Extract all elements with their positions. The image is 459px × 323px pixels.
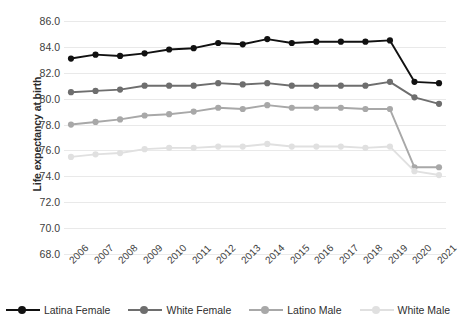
series-white-female [68,79,442,107]
data-point [338,39,344,45]
legend-item[interactable]: White Male [360,304,451,316]
data-point [436,80,442,86]
data-point [289,83,295,89]
data-point [117,87,123,93]
data-point [240,106,246,112]
y-axis-tick-label: 78.0 [2,119,60,131]
legend-label: White Female [166,304,231,316]
data-point [387,106,393,112]
data-point [191,109,197,115]
data-point [436,164,442,170]
y-axis-tick-label: 86.0 [2,15,60,27]
data-point [92,119,98,125]
data-point [411,79,417,85]
data-point [313,143,319,149]
legend-item[interactable]: Latino Male [249,304,341,316]
legend-label: Latino Male [287,304,341,316]
data-point [362,145,368,151]
x-axis-tick-labels: 2006200720082009201020112012201320142015… [64,256,446,298]
legend-item[interactable]: Latina Female [6,304,111,316]
data-point [68,55,74,61]
data-point [68,89,74,95]
series-latina-female [68,36,442,86]
y-axis-tick-labels: 86.084.082.080.078.076.074.072.070.068.0 [0,21,60,254]
y-axis-tick-label: 82.0 [2,67,60,79]
data-point [313,105,319,111]
series-line [71,105,439,167]
data-point [166,145,172,151]
y-axis-tick-label: 84.0 [2,41,60,53]
data-point [436,172,442,178]
y-axis-tick-label: 72.0 [2,196,60,208]
data-point [387,37,393,43]
data-point [264,36,270,42]
data-point [191,45,197,51]
data-point [240,143,246,149]
data-point [142,50,148,56]
series-line [71,144,439,175]
data-point [387,79,393,85]
data-point [215,105,221,111]
data-point [240,81,246,87]
series-latino-male [68,102,442,170]
legend-swatch [128,305,162,315]
data-point [166,111,172,117]
data-point [240,41,246,47]
data-point [92,88,98,94]
data-point [436,101,442,107]
legend-label: White Male [398,304,451,316]
data-point [411,168,417,174]
data-point [215,40,221,46]
legend-swatch [249,305,283,315]
data-point [142,146,148,152]
series-line [71,39,439,83]
data-point [142,112,148,118]
data-point [92,151,98,157]
series-line [71,82,439,104]
data-point [92,52,98,58]
data-point [68,154,74,160]
data-point [142,83,148,89]
data-point [166,46,172,52]
legend-dot [18,306,26,314]
data-point [166,83,172,89]
series-layer [64,21,446,254]
y-axis-tick-label: 70.0 [2,222,60,234]
legend-swatch [360,305,394,315]
plot-area [64,21,446,254]
legend-label: Latina Female [44,304,111,316]
data-point [338,105,344,111]
data-point [338,143,344,149]
legend-dot [261,306,269,314]
data-point [215,143,221,149]
chart-legend: Latina FemaleWhite FemaleLatino MaleWhit… [0,299,456,321]
data-point [411,94,417,100]
legend-swatch [6,305,40,315]
data-point [264,80,270,86]
data-point [289,143,295,149]
series-white-male [68,141,442,178]
y-axis-tick-label: 74.0 [2,170,60,182]
y-axis-tick-label: 68.0 [2,248,60,260]
legend-dot [372,306,380,314]
data-point [68,121,74,127]
data-point [215,80,221,86]
data-point [313,39,319,45]
data-point [264,141,270,147]
data-point [387,143,393,149]
data-point [191,145,197,151]
data-point [191,83,197,89]
data-point [289,105,295,111]
legend-item[interactable]: White Female [128,304,231,316]
data-point [289,40,295,46]
data-point [338,83,344,89]
data-point [313,83,319,89]
y-axis-tick-label: 80.0 [2,93,60,105]
data-point [117,116,123,122]
data-point [264,102,270,108]
data-point [117,53,123,59]
y-axis-tick-label: 76.0 [2,144,60,156]
data-point [362,39,368,45]
data-point [362,106,368,112]
